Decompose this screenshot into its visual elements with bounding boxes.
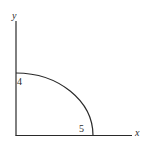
x-axis-label: x <box>135 128 139 138</box>
diagram-canvas <box>0 0 146 146</box>
y-axis-label: y <box>12 11 16 21</box>
x-intercept-label: 5 <box>79 124 84 134</box>
y-intercept-label: 4 <box>17 77 22 87</box>
